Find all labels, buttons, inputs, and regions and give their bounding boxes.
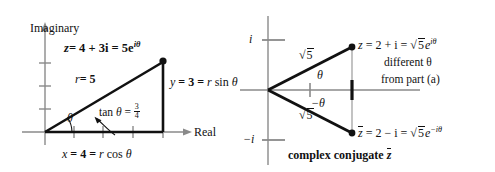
upper-radicand-b: 5 <box>307 48 314 61</box>
z-radicand-b: 5 <box>418 38 425 51</box>
zbar-symbol-b: z <box>358 126 363 139</box>
point-z-marker-b <box>349 44 356 51</box>
y-theta-a: θ <box>232 75 238 89</box>
note-line-2-b: from part (a) <box>381 74 440 86</box>
theta-lower-label-b: −θ <box>311 97 325 109</box>
r-value-a: = 5 <box>80 72 96 86</box>
tan-fraction-a: 34 <box>134 103 140 121</box>
tick-label-i-b: i <box>249 33 252 45</box>
y-sin-a: sin <box>215 75 229 89</box>
radius-label-a: r= 5 <box>75 73 96 85</box>
zbar-sqrt-b: √5 <box>410 126 425 139</box>
x-theta-a: θ <box>126 147 132 161</box>
tan-denominator-a: 4 <box>134 112 140 120</box>
z-symbol-b: z <box>358 38 363 52</box>
caption-zbar-symbol-b: z <box>387 148 392 161</box>
z-equation-part2-a: = 5e <box>112 41 134 55</box>
theta-label-a: θ <box>67 112 73 124</box>
triangle-hypotenuse-a <box>45 62 163 132</box>
zbar-equation-part2-b: = <box>401 126 408 140</box>
x-r-symbol-a: r <box>99 147 104 161</box>
real-axis-arrow-a <box>183 129 192 136</box>
y-symbol-a: y <box>170 75 175 89</box>
vertical-leg-label-a: y = 3 = r sin θ <box>170 76 238 88</box>
zbar-radicand-b: 5 <box>418 126 425 139</box>
figure-root: Imaginary Real z= 4 + 3i = 5eiθ r= 5 θ t… <box>0 0 495 172</box>
point-z-marker-a <box>159 57 166 64</box>
caption-text-b: complex conjugate <box>288 148 384 162</box>
axis-label-imaginary: Imaginary <box>30 22 79 34</box>
upper-sqrt-b: √5 <box>299 48 314 61</box>
zbar-equation-b: z = 2 − i = √5e−iθ <box>358 126 442 139</box>
z-exponent-b: iθ <box>430 37 436 46</box>
caption-b: complex conjugate z <box>288 148 391 161</box>
tan-text-a: tan <box>99 106 113 118</box>
y-value-a: = 3 = <box>178 75 204 89</box>
axis-label-real: Real <box>194 126 216 138</box>
point-zbar-marker-b <box>349 130 356 137</box>
upper-radius-label-b: √5 <box>299 48 314 61</box>
x-symbol-a: x <box>62 147 67 161</box>
note-line-1-b: different θ <box>384 57 432 69</box>
z-equation-b: z = 2 + i = √5eiθ <box>358 38 437 51</box>
panel-a-triangle <box>45 57 167 132</box>
zbar-equation-part1-b: = 2 − i <box>366 126 398 140</box>
tangent-label-a: tan θ = 34 <box>99 103 140 121</box>
x-value-a: = 4 = <box>70 147 96 161</box>
z-equation-part1-b: = 2 + i <box>366 38 398 52</box>
z-equation-part1-a: = 4 + 3i <box>69 41 109 55</box>
tick-label-neg-i-b: −i <box>243 133 254 145</box>
z-equation-part2-b: = <box>401 38 408 52</box>
tan-theta-a: θ <box>116 106 122 118</box>
z-sqrt-b: √5 <box>410 38 425 51</box>
horizontal-leg-label-a: x = 4 = r cos θ <box>62 148 132 160</box>
point-equation-a: z= 4 + 3i = 5eiθ <box>64 40 140 55</box>
zbar-exponent-b: −iθ <box>430 125 442 134</box>
y-r-symbol-a: r <box>207 75 212 89</box>
x-cos-a: cos <box>107 147 123 161</box>
z-exponent-a: iθ <box>134 39 141 49</box>
theta-upper-label-b: θ <box>317 69 323 81</box>
tan-equals-a: = <box>124 106 131 118</box>
